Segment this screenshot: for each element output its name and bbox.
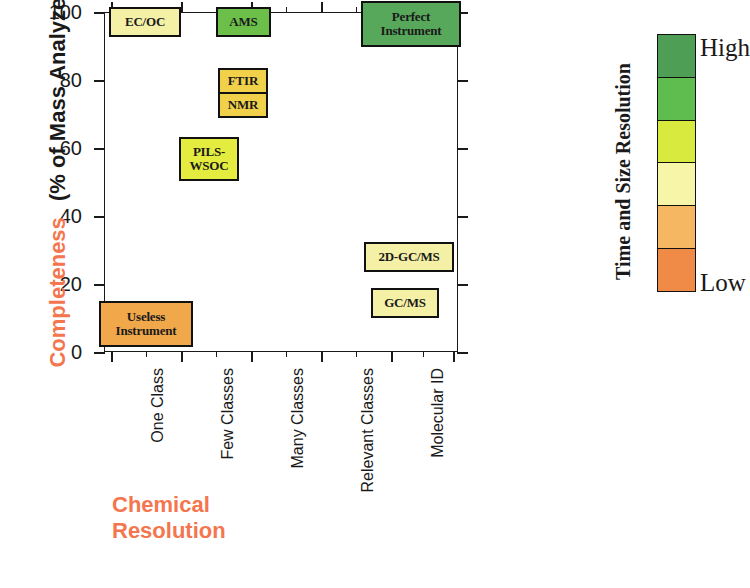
data-box-ftir[interactable]: FTIR [218,68,268,94]
x-tick-top-minor-4 [356,7,357,13]
data-box-label: AMS [227,15,259,29]
colorbar-segment-4 [658,163,695,206]
data-box-ams[interactable]: AMS [216,7,271,37]
data-box-perfect-instrument[interactable]: Perfect Instrument [361,1,461,47]
x-tick-label-one-class: One Class [146,368,162,443]
colorbar-segment-3 [658,121,695,164]
data-box-pils-wsoc[interactable]: PILS-WSOC [179,137,239,181]
y-tick-left-0 [94,352,105,354]
data-box-gc-ms[interactable]: GC/MS [371,288,439,318]
colorbar-segment-6 [658,249,695,291]
y-axis-title-units: (% of Mass Analyzed) [45,0,70,201]
colorbar-segment-1 [658,35,695,78]
x-tick-bottom-minor-3 [286,351,287,357]
x-tick-label-many-classes: Many Classes [286,368,302,468]
x-tick-top-4 [321,2,323,13]
x-tick-bottom-3 [251,351,253,362]
y-tick-left-80 [94,80,105,82]
x-axis-title-line-2: Resolution [112,518,226,544]
y-tick-left-60 [94,148,105,150]
x-tick-label-few-classes: Few Classes [216,368,232,460]
y-tick-right-20 [457,284,468,286]
colorbar-segment-2 [658,78,695,121]
data-box-label: EC/OC [123,15,167,29]
y-axis-title-accent: Completeness [45,217,70,367]
x-tick-top-2 [181,2,183,13]
data-box-label: GC/MS [382,296,428,310]
y-tick-right-40 [457,216,468,218]
x-tick-bottom-minor-4 [356,351,357,357]
x-tick-bottom-minor-5 [423,351,424,357]
data-box-nmr[interactable]: NMR [218,92,268,118]
x-tick-label-molecular-id: Molecular ID [426,368,442,458]
x-axis-title: Chemical Resolution [112,492,226,544]
data-box-ec-oc[interactable]: EC/OC [109,7,181,37]
y-tick-label-0: 0 [71,342,82,362]
plot-area: EC/OC AMS Perfect Instrument FTIR NMR PI… [104,12,458,352]
data-box-label: FTIR [226,74,260,88]
data-box-label: 2D-GC/MS [376,250,441,264]
data-box-label: PILS-WSOC [181,145,237,172]
x-axis-title-line-1: Chemical [112,492,226,518]
x-tick-top-minor-3 [286,7,287,13]
x-tick-bottom-6 [453,351,455,362]
x-tick-bottom-4 [321,351,323,362]
x-tick-label-relevant-classes: Relevant Classes [356,368,372,493]
colorbar-title: Time and Size Resolution [612,27,635,317]
data-box-label: Perfect Instrument [363,10,459,37]
y-tick-left-100 [94,12,105,14]
data-box-label: NMR [226,98,260,112]
data-box-useless-instrument[interactable]: Useless Instrument [99,301,193,347]
colorbar [657,34,696,292]
y-tick-right-0 [457,352,468,354]
x-tick-bottom-5 [391,351,393,362]
y-axis-title: Completeness (% of Mass Analyzed) [46,8,69,368]
y-tick-right-60 [457,148,468,150]
colorbar-label-high: High [700,34,750,62]
x-tick-bottom-minor-2 [216,351,217,357]
colorbar-segment-5 [658,206,695,249]
x-tick-bottom-1 [111,351,113,362]
y-tick-left-40 [94,216,105,218]
colorbar-label-low: Low [700,269,746,297]
y-tick-left-20 [94,284,105,286]
x-tick-bottom-minor-1 [146,351,147,357]
data-box-label: Useless Instrument [101,310,191,337]
x-tick-bottom-2 [181,351,183,362]
y-tick-right-80 [457,80,468,82]
data-box-2d-gc-ms[interactable]: 2D-GC/MS [364,242,454,272]
